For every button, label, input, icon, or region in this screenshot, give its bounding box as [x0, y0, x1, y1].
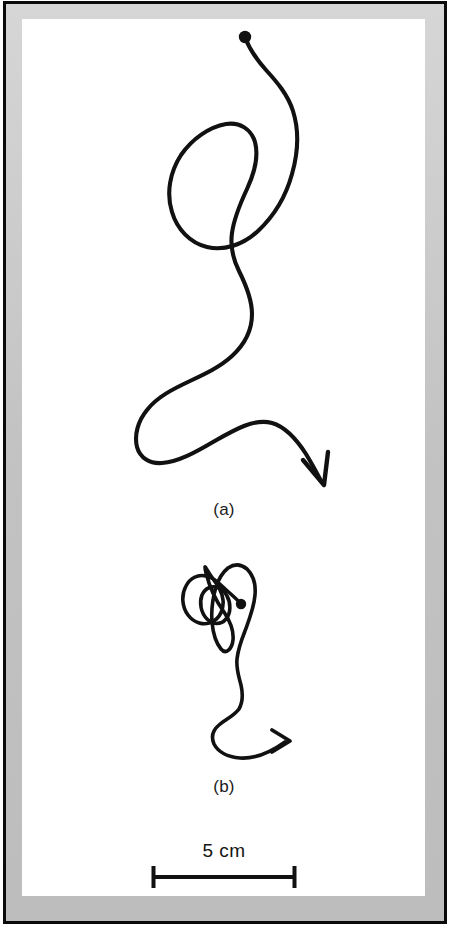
trajectory-canvas	[0, 0, 451, 940]
trajectory-b-path	[183, 565, 285, 758]
scale-bar-label: 5 cm	[164, 840, 284, 862]
trajectory-svg	[0, 0, 451, 940]
panel-label-b: (b)	[194, 777, 254, 797]
trajectory-b	[183, 565, 290, 758]
figure-root: (a) (b) 5 cm	[0, 0, 451, 940]
panel-label-a: (a)	[194, 500, 254, 520]
trajectory-b-arrowhead	[272, 730, 290, 752]
scale-bar	[152, 866, 296, 888]
trajectory-a	[136, 31, 328, 485]
trajectory-a-path	[136, 39, 321, 482]
